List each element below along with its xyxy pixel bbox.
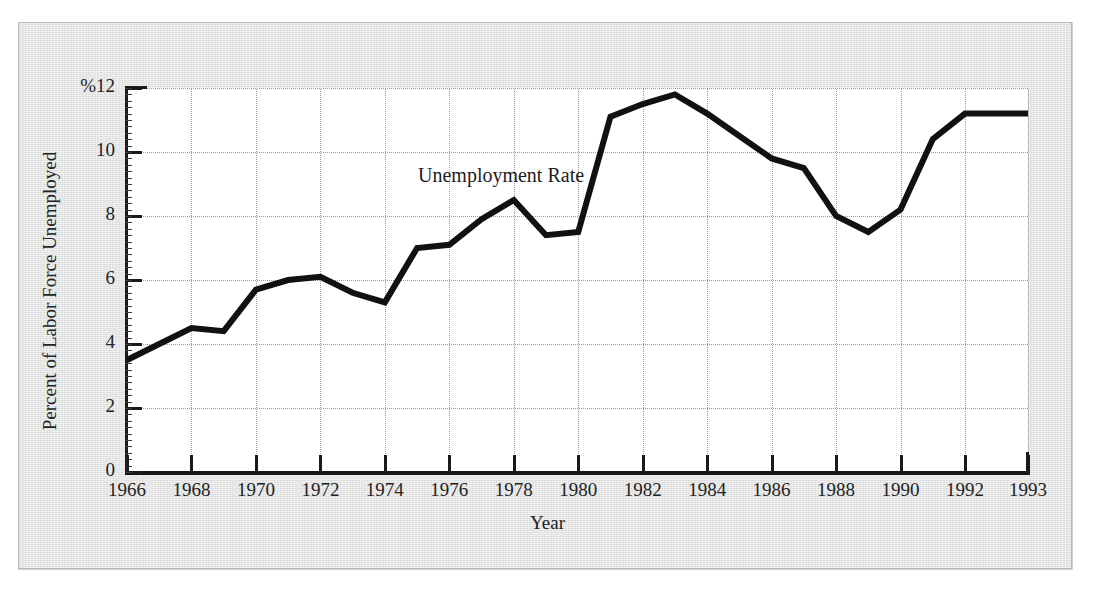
unemployment-rate-line-chart: 0246810%12 19661968197019721974197619781… [0, 0, 1095, 614]
figure-root: 0246810%12 19661968197019721974197619781… [0, 0, 1095, 614]
series-annotation-label: Unemployment Rate [418, 164, 584, 187]
x-axis-title: Year [0, 512, 1095, 534]
y-axis-title: Percent of Labor Force Unemployed [39, 91, 61, 491]
unemployment-rate-line [127, 94, 1028, 360]
